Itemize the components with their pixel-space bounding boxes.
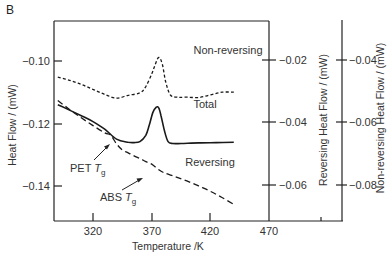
right2-y-tick-labels: −0.04 −0.06 −0.08 bbox=[349, 54, 377, 191]
y-right1-tick-0: −0.02 bbox=[279, 54, 307, 66]
y-right2-axis-label: Non-reversing Heat Flow / (mW) bbox=[374, 43, 386, 194]
pet-label: PET bbox=[70, 162, 94, 174]
abs-arrowhead-icon bbox=[137, 178, 144, 183]
x-axis-ticks bbox=[93, 213, 210, 221]
left-y-tick-labels: −0.10 −0.12 −0.14 bbox=[22, 55, 50, 192]
dsc-chart: B 320 370 420 470 Temperature /K −0.10 −… bbox=[0, 0, 390, 261]
label-total: Total bbox=[193, 98, 216, 110]
x-axis-label: Temperature /K bbox=[132, 240, 204, 252]
right1-y-tick-labels: −0.02 −0.04 −0.06 bbox=[279, 54, 307, 191]
y-right1-axis-label: Reversing Heat Flow / (mW) bbox=[317, 54, 329, 186]
svg-text:ABS Tg: ABS Tg bbox=[100, 191, 136, 206]
label-non-reversing: Non-reversing bbox=[193, 44, 262, 56]
y-left-tick-1: −0.12 bbox=[22, 118, 50, 130]
abs-tg-annotation: ABS Tg bbox=[100, 178, 143, 206]
y-right2-tick-2: −0.08 bbox=[349, 179, 377, 191]
left-y-ticks bbox=[54, 61, 62, 186]
label-reversing: Reversing bbox=[185, 156, 235, 168]
y-left-axis-label: Heat Flow / (mW) bbox=[6, 84, 18, 166]
abs-tg-sub: g bbox=[132, 197, 136, 206]
x-tick-320: 320 bbox=[84, 225, 102, 237]
curve-total bbox=[58, 105, 234, 144]
y-left-tick-2: −0.14 bbox=[22, 180, 50, 192]
y-right1-tick-1: −0.04 bbox=[279, 116, 307, 128]
y-right2-tick-0: −0.04 bbox=[349, 54, 377, 66]
y-right1-tick-2: −0.06 bbox=[279, 179, 307, 191]
pet-tg-annotation: PET Tg bbox=[70, 144, 110, 177]
y-right2-tick-1: −0.06 bbox=[349, 116, 377, 128]
curve-non-reversing bbox=[58, 57, 234, 98]
panel-label: B bbox=[6, 3, 14, 17]
abs-label: ABS bbox=[100, 191, 125, 203]
y-left-tick-0: −0.10 bbox=[22, 55, 50, 67]
svg-text:PET Tg: PET Tg bbox=[70, 162, 105, 177]
pet-tg-sub: g bbox=[101, 168, 105, 177]
x-tick-470: 470 bbox=[260, 225, 278, 237]
x-tick-420: 420 bbox=[201, 225, 219, 237]
x-axis-tick-labels: 320 370 420 470 bbox=[84, 225, 278, 237]
curve-reversing bbox=[58, 101, 234, 205]
data-curves bbox=[58, 57, 234, 204]
x-tick-370: 370 bbox=[143, 225, 161, 237]
